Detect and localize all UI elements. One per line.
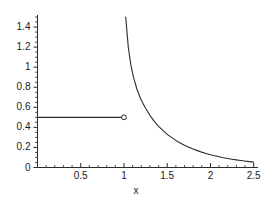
- y-axis-tick-label: 0: [0, 163, 31, 173]
- x-axis-ticks: [38, 163, 254, 168]
- y-axis-tick-label: 1: [0, 62, 31, 72]
- y-axis-tick-label: 0.8: [0, 82, 31, 92]
- y-axis-ticks: [34, 17, 38, 167]
- y-axis-tick-label: 0.2: [0, 142, 31, 152]
- x-axis-tick-label: 0.5: [61, 171, 101, 181]
- x-axis-tick-label: 1.5: [147, 171, 187, 181]
- plot-figure: 00.20.40.60.811.21.4 0.511.522.5 x: [0, 0, 272, 202]
- series-decaying-branch: [126, 17, 254, 162]
- x-axis-tick-label: 2: [190, 171, 230, 181]
- x-axis-title: x: [0, 186, 272, 196]
- open-circle-discontinuity-marker: [122, 115, 127, 120]
- y-axis-tick-label: 1.2: [0, 42, 31, 52]
- x-axis-tick-label: 1: [104, 171, 144, 181]
- y-axis-tick-label: 1.4: [0, 22, 31, 32]
- x-axis-tick-label: 2.5: [234, 171, 272, 181]
- y-axis-tick-label: 0.4: [0, 122, 31, 132]
- y-axis-tick-label: 0.6: [0, 102, 31, 112]
